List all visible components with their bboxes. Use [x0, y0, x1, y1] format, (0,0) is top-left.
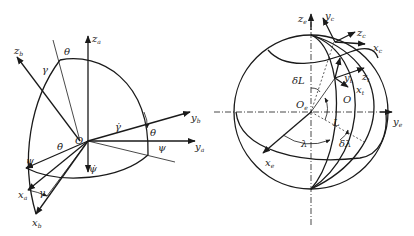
label-y-a: ya	[194, 141, 205, 153]
label-z-c: zc	[356, 27, 366, 39]
label-L: L	[332, 117, 340, 128]
label-y-e: ye	[392, 116, 403, 128]
y-b-axis	[88, 112, 190, 141]
label-psi-left: ψ	[26, 155, 34, 166]
label-theta-dot: θ̇	[57, 141, 63, 152]
right-sphere-diagram: ze yc zc xc yt zt xt δL O Oe ye L λ δλ x…	[214, 10, 403, 225]
label-y-t: yt	[343, 72, 353, 84]
label-gamma-bottom: γ	[39, 187, 45, 198]
label-theta-top: θ	[64, 46, 70, 57]
left-euler-diagram: za zb θ γ γ̇ yb θ ya ψ O θ̇ ψ ψ̇ xa γ xb	[13, 33, 205, 229]
label-x-a: xa	[18, 189, 28, 201]
label-gamma-top: γ	[42, 64, 48, 75]
label-z-b: zb	[13, 45, 23, 57]
z-c-axis	[335, 32, 355, 42]
label-x-t: xt	[356, 84, 365, 96]
z-b-axis	[17, 57, 80, 141]
label-y-b: yb	[190, 112, 201, 124]
label-y-c: yc	[324, 10, 335, 22]
label-gamma-dot: γ̇	[115, 121, 121, 132]
arc-bottom	[26, 155, 148, 178]
y-t-axis	[335, 58, 340, 78]
label-z-t: zt	[361, 71, 370, 83]
latitude-arc	[268, 49, 378, 64]
radial-dash-1	[311, 42, 334, 112]
label-z-e: ze	[297, 13, 307, 25]
label-x-e: xe	[265, 157, 275, 169]
label-theta-right: θ	[150, 127, 156, 138]
label-origin-O-e: Oe	[296, 99, 308, 111]
label-origin-O-local: O	[343, 94, 351, 105]
label-delta-L: δL	[292, 75, 305, 86]
label-z-a: za	[91, 33, 101, 45]
label-origin-O: O	[75, 135, 83, 146]
radius-to-O	[311, 78, 335, 112]
label-x-c: xc	[373, 42, 383, 54]
meridian-3	[311, 35, 374, 189]
label-psi-right: ψ	[158, 142, 166, 153]
label-delta-lambda: δλ	[339, 138, 351, 149]
label-psi-dot: ψ̇	[89, 163, 97, 174]
diagram-canvas: za zb θ γ γ̇ yb θ ya ψ O θ̇ ψ ψ̇ xa γ xb	[0, 0, 414, 236]
L-arc	[325, 98, 328, 120]
x-c-axis	[335, 42, 365, 44]
label-lambda: λ	[300, 138, 307, 149]
label-x-b: xb	[32, 217, 42, 229]
